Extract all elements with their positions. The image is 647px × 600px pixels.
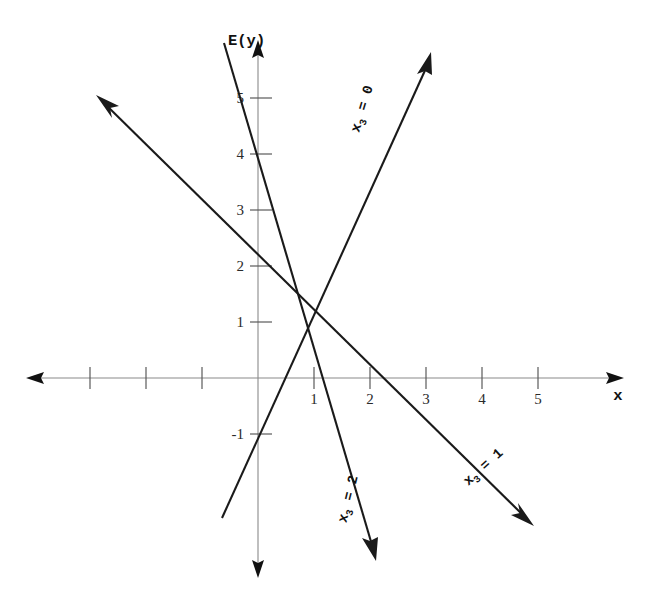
label-x3-eq-0: x3 = 0 [348,84,380,136]
y-tick-label-neg1: -1 [232,426,245,442]
y-tick-label-3: 3 [237,202,245,218]
y-tick-label-2: 2 [237,258,245,274]
x-tick-label-3: 3 [422,391,430,407]
chart-figure: 1 2 3 4 5 1 2 3 4 5 -1 E(y) x [0,0,647,600]
x-tick-label-5: 5 [534,391,542,407]
label-x3-eq-2-eq: = [338,482,360,510]
y-tick-label-1: 1 [237,314,245,330]
x-tick-label-4: 4 [478,391,486,407]
label-x3-eq-2: x3 = 2 [335,474,365,525]
y-axis-tick-labels: 1 2 3 4 5 -1 [232,90,245,442]
y-tick-label-4: 4 [237,146,245,162]
series-x3-eq-2-segment [224,43,372,545]
x-axis-label: x [613,387,622,405]
y-axis-label: E(y) [228,32,265,50]
series-line-x3-eq-0 [222,52,432,518]
chart-canvas: 1 2 3 4 5 1 2 3 4 5 -1 E(y) x [0,0,647,600]
x-tick-label-1: 1 [310,391,318,407]
series-annotations: x3 = 0 x3 = 2 x3 = 1 [335,84,509,525]
axes-group [26,40,624,578]
label-x3-eq-1: x3 = 1 [460,445,508,491]
x-axis-tick-labels: 1 2 3 4 5 [310,391,542,407]
series-x3-eq-0-segment [222,66,427,518]
x-tick-label-2: 2 [366,391,374,407]
